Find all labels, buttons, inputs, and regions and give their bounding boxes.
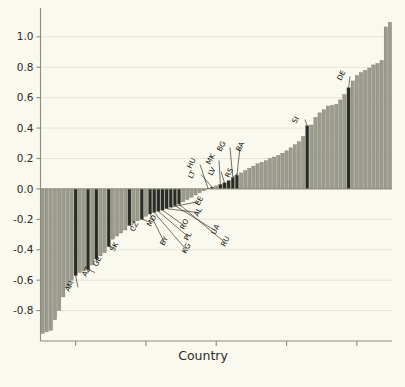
bar xyxy=(260,162,263,189)
bar xyxy=(169,189,172,207)
bar xyxy=(351,81,354,189)
bar xyxy=(82,189,85,271)
bar xyxy=(111,189,114,239)
bar xyxy=(70,189,73,280)
bar xyxy=(148,189,151,214)
y-axis-tick-label: -0.6 xyxy=(13,274,34,286)
bar xyxy=(49,189,52,330)
bar xyxy=(99,189,102,256)
bar xyxy=(182,189,185,202)
bar xyxy=(144,189,147,216)
bar xyxy=(115,189,118,236)
bar xyxy=(372,65,375,189)
bar xyxy=(297,142,300,189)
y-axis-tick-label: -0.2 xyxy=(13,213,34,225)
bar xyxy=(277,155,280,188)
bar xyxy=(268,158,271,188)
bar xyxy=(140,189,143,219)
bar xyxy=(235,175,238,189)
bar xyxy=(45,189,48,332)
bar xyxy=(376,63,379,188)
chart-container: 1.00.80.60.40.20.0-0.2-0.4-0.6-0.8 AMAZG… xyxy=(0,0,405,387)
bar xyxy=(318,113,321,189)
bar xyxy=(301,136,304,188)
bar xyxy=(330,105,333,189)
bar xyxy=(289,148,292,189)
bar xyxy=(285,151,288,189)
bar xyxy=(78,189,81,273)
bar xyxy=(57,189,60,311)
bar xyxy=(107,189,110,247)
bar xyxy=(66,189,69,288)
bar xyxy=(343,95,346,189)
y-axis-tick-label: 0.6 xyxy=(17,91,34,103)
y-axis-tick-label: 1.0 xyxy=(17,30,34,42)
bar xyxy=(355,76,358,189)
bar xyxy=(62,189,65,297)
y-axis-tick-label: 0.8 xyxy=(17,61,34,73)
bar xyxy=(231,178,234,189)
bar xyxy=(326,106,329,189)
bar xyxy=(363,70,366,189)
bar xyxy=(41,189,44,333)
bar xyxy=(132,189,135,222)
bar xyxy=(223,183,226,189)
y-axis-tick-label: -0.4 xyxy=(13,243,34,255)
bar xyxy=(136,189,139,221)
bar xyxy=(157,189,160,212)
bar xyxy=(74,189,77,276)
bar xyxy=(165,189,168,209)
bar xyxy=(248,168,251,189)
bar xyxy=(264,161,267,189)
bar xyxy=(335,105,338,189)
bar xyxy=(384,27,387,189)
bar xyxy=(347,88,350,189)
y-axis-tick-label: 0.4 xyxy=(17,122,34,134)
bar xyxy=(86,189,89,270)
bar xyxy=(95,189,98,259)
bar xyxy=(119,189,122,233)
bar xyxy=(281,153,284,189)
bar xyxy=(194,189,197,195)
bar xyxy=(128,189,131,226)
bar xyxy=(239,173,242,189)
bar xyxy=(314,117,317,188)
bar xyxy=(173,189,176,206)
bar xyxy=(359,73,362,189)
y-axis-tick-label: 0.0 xyxy=(17,183,34,195)
bar xyxy=(252,166,255,189)
bar xyxy=(177,189,180,204)
bar xyxy=(244,171,247,189)
bar xyxy=(310,125,313,189)
bar xyxy=(124,189,127,230)
bar xyxy=(186,189,189,200)
y-axis-tick-label: -0.8 xyxy=(13,304,34,316)
bar xyxy=(293,145,296,189)
bar xyxy=(256,164,259,189)
bar xyxy=(198,189,201,193)
bar xyxy=(272,157,275,189)
bar xyxy=(190,189,193,197)
bar xyxy=(306,126,309,189)
bar xyxy=(103,189,106,253)
bar xyxy=(91,189,94,265)
bar xyxy=(161,189,164,210)
bar xyxy=(388,22,391,189)
bar xyxy=(219,184,222,189)
bar xyxy=(322,110,325,189)
x-axis-title: Country xyxy=(178,348,228,363)
bar xyxy=(53,189,56,320)
bar-chart: 1.00.80.60.40.20.0-0.2-0.4-0.6-0.8 AMAZG… xyxy=(0,0,405,387)
bar xyxy=(368,68,371,189)
bar xyxy=(339,100,342,189)
bar xyxy=(227,181,230,189)
y-axis-tick-label: 0.2 xyxy=(17,152,34,164)
bar xyxy=(380,60,383,189)
bar xyxy=(153,189,156,213)
